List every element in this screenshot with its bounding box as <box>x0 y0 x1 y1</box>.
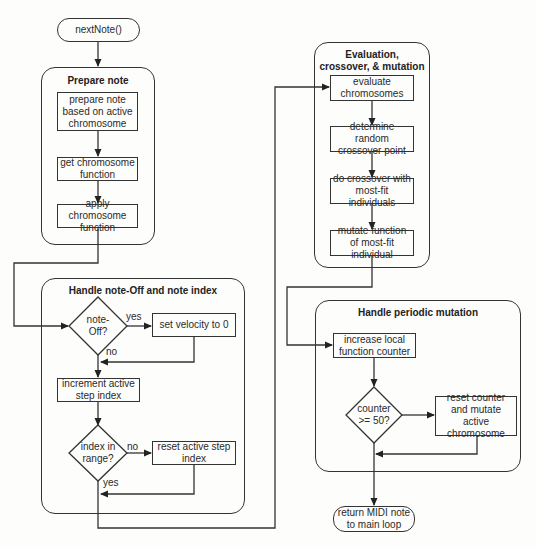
edge-label-no-index: no <box>127 441 138 453</box>
action-reset-counter-mutate: reset counter and mutate active chromoso… <box>435 396 517 436</box>
group-title-handle-note-off: Handle note-Off and note index <box>42 285 244 297</box>
flowchart-canvas: nextNote() Prepare note prepare note bas… <box>0 0 536 547</box>
end-label: return MIDI note to main loop <box>334 507 414 531</box>
step-increment-active-step-index: increment active step index <box>57 378 140 402</box>
decision-index-range-label: index in range? <box>78 439 118 467</box>
group-handle-periodic-mutation: Handle periodic mutation <box>315 300 521 472</box>
group-title-periodic-mutation: Handle periodic mutation <box>316 307 520 319</box>
start-label: nextNote() <box>75 24 122 36</box>
step-prepare-note-based: prepare note based on active chromosome <box>57 92 138 131</box>
edge-label-yes-index: yes <box>103 477 119 489</box>
edge-label-yes-note-off: yes <box>126 311 142 323</box>
step-evaluate-chromosomes: evaluate chromosomes <box>330 75 414 101</box>
group-title-evaluation: Evaluation, crossover, & mutation <box>315 49 429 73</box>
start-terminator: nextNote() <box>57 18 140 42</box>
step-mutate-function: mutate function of most-fit individual <box>330 230 414 256</box>
step-increase-local-counter: increase local function counter <box>333 333 416 358</box>
action-set-velocity: set velocity to 0 <box>152 313 236 337</box>
decision-note-off-label: note-Off? <box>78 312 118 340</box>
edge-label-no-note-off: no <box>106 346 117 358</box>
step-get-chromosome-function: get chromosome function <box>57 157 138 181</box>
decision-counter-label: counter >= 50? <box>352 401 396 429</box>
step-determine-crossover-point: determine random crossover point <box>330 126 414 152</box>
action-reset-active-step-index: reset active step index <box>152 441 236 465</box>
end-terminator: return MIDI note to main loop <box>333 506 415 532</box>
step-apply-chromosome-function: apply chromosome function <box>57 204 138 228</box>
group-title-prepare-note: Prepare note <box>42 75 154 87</box>
step-do-crossover: do crossover with most-fit individuals <box>330 178 414 204</box>
